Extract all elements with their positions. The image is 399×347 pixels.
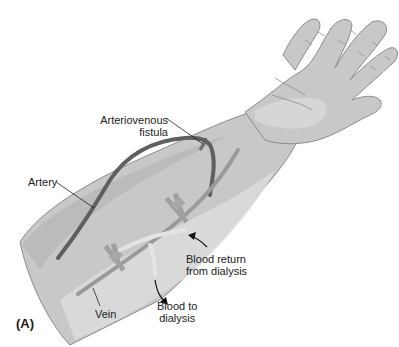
arteriovenous-fistula-diagram: Arteriovenous fistula Artery Vein Blood … bbox=[0, 0, 399, 347]
blood-return-label-line1: Blood return bbox=[186, 253, 247, 265]
blood-return-label: Blood return from dialysis bbox=[186, 253, 247, 277]
vein-label: Vein bbox=[95, 308, 116, 320]
blood-to-dialysis-label: Blood to dialysis bbox=[157, 300, 197, 324]
fistula-label: Arteriovenous fistula bbox=[100, 114, 168, 138]
fistula-label-line1: Arteriovenous bbox=[100, 114, 168, 126]
panel-label: (A) bbox=[16, 318, 34, 330]
blood-to-label-line1: Blood to bbox=[157, 300, 197, 312]
fistula-label-line2: fistula bbox=[100, 126, 168, 138]
hand bbox=[245, 19, 397, 144]
blood-to-label-line2: dialysis bbox=[157, 312, 197, 324]
arm-illustration bbox=[0, 0, 399, 347]
blood-return-label-line2: from dialysis bbox=[186, 265, 247, 277]
artery-label: Artery bbox=[28, 176, 57, 188]
